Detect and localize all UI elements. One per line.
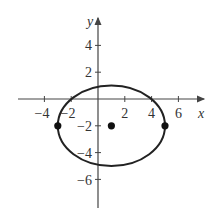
x-tick-label: 2 bbox=[121, 106, 128, 121]
y-axis-label: y bbox=[85, 14, 94, 29]
y-tick-label: −6 bbox=[77, 173, 92, 188]
left-vertex-point bbox=[54, 122, 61, 129]
right-vertex-point bbox=[161, 122, 168, 129]
y-tick-label: 4 bbox=[85, 38, 92, 53]
ellipse-graph: −4 −2 2 4 6 x 4 2 −2 −4 −6 y bbox=[0, 0, 216, 219]
y-tick-label: 2 bbox=[85, 65, 92, 80]
y-tick-label: −2 bbox=[77, 119, 92, 134]
x-axis-label: x bbox=[197, 106, 205, 121]
center-point bbox=[108, 122, 115, 129]
x-tick-label: 6 bbox=[175, 106, 182, 121]
x-tick-label: −4 bbox=[35, 106, 50, 121]
x-tick-label: 4 bbox=[148, 106, 155, 121]
